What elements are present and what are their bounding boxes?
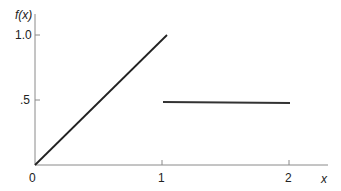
y-axis-label: f(x) [15, 9, 32, 21]
origin-label: 0 [29, 172, 36, 184]
segment-horizontal [163, 102, 290, 103]
x-tick-label-2: 2 [285, 172, 292, 184]
y-tick-label-1: 1.0 [15, 29, 32, 41]
x-tick-label-1: 1 [158, 172, 165, 184]
piecewise-function-chart [0, 0, 341, 191]
x-axis-label: x [321, 173, 327, 185]
y-tick-label-half: .5 [20, 94, 30, 106]
segment-diagonal [35, 35, 167, 165]
